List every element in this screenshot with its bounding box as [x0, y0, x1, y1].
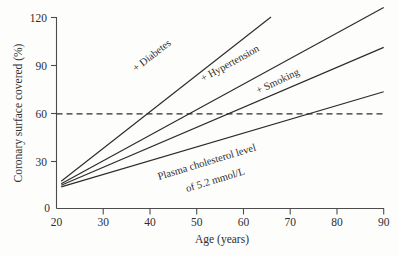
y-tick-label-120: 120: [30, 12, 48, 24]
series-label-smoking: + Smoking: [254, 66, 301, 96]
x-tick-label-50: 50: [191, 216, 203, 228]
series-label-diabetes: + Diabetes: [130, 37, 172, 74]
x-tick-label-80: 80: [331, 216, 343, 228]
x-axis-ticks: [103, 209, 384, 215]
x-tick-label-30: 30: [97, 216, 109, 228]
chart-figure: 120 90 60 30 0 20 30 40 50 60 70 80 90: [0, 0, 399, 256]
x-tick-label-40: 40: [144, 216, 156, 228]
y-tick-label-90: 90: [36, 60, 48, 72]
x-tick-label-70: 70: [284, 216, 296, 228]
y-tick-label-60: 60: [36, 108, 48, 120]
y-tick-label-0: 0: [44, 202, 50, 214]
x-axis-tick-labels: 20 30 40 50 60 70 80 90: [51, 216, 390, 228]
x-axis-title: Age (years): [195, 233, 249, 246]
y-axis-ticks: [51, 18, 57, 162]
y-tick-label-30: 30: [36, 156, 48, 168]
x-tick-label-60: 60: [238, 216, 250, 228]
y-axis-title: Coronary surface covered (%): [12, 43, 25, 182]
coronary-surface-line-chart: 120 90 60 30 0 20 30 40 50 60 70 80 90: [0, 0, 399, 256]
x-tick-label-90: 90: [378, 216, 390, 228]
y-axis-tick-labels: 120 90 60 30 0: [30, 12, 51, 215]
x-tick-label-20: 20: [51, 216, 63, 228]
